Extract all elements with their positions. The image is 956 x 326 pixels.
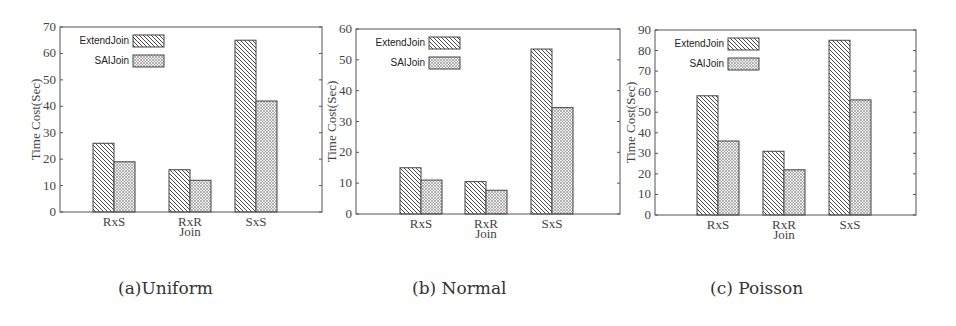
y-tick-label: 10 <box>339 175 352 190</box>
legend-swatch <box>429 37 460 49</box>
legend-swatch <box>429 57 460 69</box>
y-tick-label: 60 <box>43 45 56 60</box>
y-tick-label: 50 <box>43 72 56 87</box>
y-tick-label: 0 <box>645 207 652 222</box>
y-tick-label: 70 <box>638 63 651 78</box>
caption-uniform: (a)Uniform <box>118 278 213 298</box>
bar-saijoin-rxs <box>421 180 442 214</box>
legend-label: SAIJoin <box>690 58 724 69</box>
bar-saijoin-rxs <box>114 162 135 212</box>
y-tick-label: 0 <box>346 206 353 221</box>
y-tick-label: 80 <box>638 43 651 58</box>
bar-extendjoin-sxs <box>829 40 850 215</box>
bar-saijoin-rxr <box>190 180 211 212</box>
x-tick-label: RxS <box>103 214 125 229</box>
y-tick-label: 10 <box>43 178 56 193</box>
bar-extendjoin-rxs <box>697 96 718 215</box>
chart-poisson: RxSRxRSxS0102030405060708090JoinTime Cos… <box>623 22 916 242</box>
y-tick-label: 30 <box>638 145 651 160</box>
y-tick-label: 50 <box>638 104 651 119</box>
x-tick-label: RxS <box>707 217 729 232</box>
legend-label: ExtendJoin <box>675 38 724 49</box>
x-axis-label: Join <box>475 226 497 241</box>
bar-extendjoin-rxs <box>400 168 421 214</box>
bar-extendjoin-sxs <box>531 49 552 214</box>
y-tick-label: 30 <box>339 114 352 129</box>
y-tick-label: 50 <box>339 52 352 67</box>
bar-extendjoin-rxr <box>465 182 486 214</box>
y-tick-label: 60 <box>638 84 651 99</box>
figure: RxSRxRSxS010203040506070JoinTime Cost(Se… <box>0 0 956 326</box>
bar-saijoin-rxs <box>718 141 739 215</box>
y-tick-label: 40 <box>339 83 352 98</box>
legend-label: ExtendJoin <box>80 35 129 46</box>
x-tick-label: SxS <box>246 214 267 229</box>
x-tick-label: SxS <box>840 217 861 232</box>
bar-saijoin-rxr <box>486 190 507 214</box>
y-tick-label: 40 <box>43 98 56 113</box>
caption-normal: (b) Normal <box>412 278 506 298</box>
y-tick-label: 90 <box>638 22 651 37</box>
y-tick-label: 40 <box>638 125 651 140</box>
legend-label: SAIJoin <box>391 57 425 68</box>
y-tick-label: 10 <box>638 186 651 201</box>
bar-saijoin-rxr <box>784 170 805 215</box>
caption-poisson: (c) Poisson <box>710 278 803 298</box>
bar-extendjoin-sxs <box>235 40 256 212</box>
x-axis-label: Join <box>773 227 795 242</box>
x-tick-label: RxS <box>410 216 432 231</box>
y-tick-label: 70 <box>43 19 56 34</box>
bar-extendjoin-rxs <box>93 143 114 212</box>
y-axis-label: Time Cost(Sec) <box>28 79 43 161</box>
y-tick-label: 20 <box>339 144 352 159</box>
bar-saijoin-sxs <box>552 108 573 214</box>
legend-swatch <box>133 55 164 67</box>
bar-extendjoin-rxr <box>169 170 190 212</box>
bar-saijoin-sxs <box>850 100 871 215</box>
y-tick-label: 0 <box>50 204 57 219</box>
y-tick-label: 20 <box>43 151 56 166</box>
x-axis-label: Join <box>179 224 201 239</box>
legend-swatch <box>133 35 164 47</box>
legend-label: ExtendJoin <box>376 37 425 48</box>
chart-uniform: RxSRxRSxS010203040506070JoinTime Cost(Se… <box>28 19 322 239</box>
legend-swatch <box>728 38 759 50</box>
y-tick-label: 20 <box>638 166 651 181</box>
bar-extendjoin-rxr <box>763 151 784 215</box>
y-tick-label: 60 <box>339 21 352 36</box>
y-axis-label: Time Cost(Sec) <box>324 81 339 163</box>
y-tick-label: 30 <box>43 125 56 140</box>
legend-label: SAIJoin <box>95 55 129 66</box>
bar-saijoin-sxs <box>256 101 277 212</box>
legend-swatch <box>728 58 759 70</box>
y-axis-label: Time Cost(Sec) <box>623 82 638 164</box>
chart-normal: RxSRxRSxS0102030405060JoinTime Cost(Sec)… <box>324 21 620 241</box>
x-tick-label: SxS <box>542 216 563 231</box>
